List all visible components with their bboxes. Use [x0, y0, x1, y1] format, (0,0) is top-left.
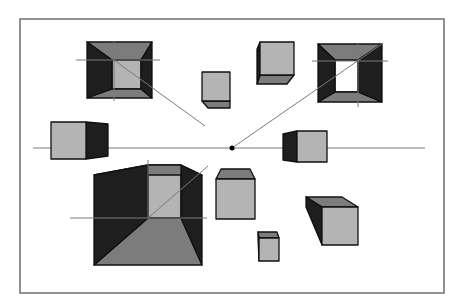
cube-top-center-front-face — [260, 42, 294, 75]
vanishing-point — [230, 146, 235, 151]
cube-right-mid-front-face — [297, 131, 327, 162]
cube-bottom-mid-top-face — [216, 169, 255, 179]
cube-bottom-mid-front-face — [216, 179, 255, 219]
cube-top-left-hollow-back-face — [112, 60, 141, 89]
cube-top-center-bottom-face — [257, 75, 294, 84]
cube-bottom-small-top-face — [258, 232, 279, 238]
cube-bottom-right-front-face — [322, 207, 358, 245]
cube-left-mid-front-face — [51, 122, 86, 159]
cube-top-right-hollow-back-face — [335, 60, 358, 92]
cube-right-mid-left-face — [283, 131, 297, 162]
cube-top-mid-small-front-face — [202, 72, 230, 101]
cube-left-mid-right-face — [86, 122, 108, 159]
diagram-canvas — [0, 0, 466, 307]
perspective-diagram — [0, 0, 466, 307]
cube-bottom-small-front-face — [259, 238, 279, 261]
